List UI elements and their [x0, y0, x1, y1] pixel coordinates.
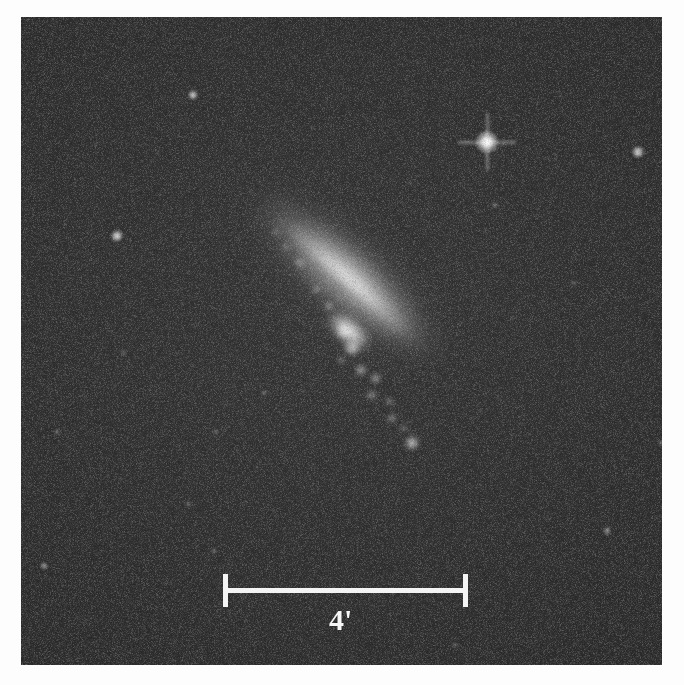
hii-region-knot	[295, 258, 305, 268]
faint-star-icon	[94, 142, 98, 146]
hii-region-knot	[272, 228, 280, 236]
faint-star-icon	[494, 148, 498, 152]
hii-region-knot	[337, 356, 346, 365]
galaxy-dust-lane	[247, 206, 417, 357]
sky-image-field: 4'	[21, 17, 662, 665]
faint-star-icon	[261, 390, 267, 396]
faint-star-icon	[626, 358, 630, 362]
hii-region-knot	[400, 424, 408, 432]
scale-bar-tick-left	[223, 574, 228, 607]
faint-star-icon	[408, 181, 412, 185]
background-vignette	[21, 17, 662, 665]
galaxy	[21, 17, 662, 665]
hii-region-knot	[324, 301, 334, 311]
faint-star-icon	[121, 350, 127, 356]
diffraction-spike-vertical	[486, 113, 489, 170]
galaxy-halo	[203, 140, 492, 413]
galaxy-inner-disk	[257, 201, 437, 365]
galaxy-disk	[229, 167, 465, 386]
faint-star-icon	[571, 280, 577, 286]
faint-star-icon	[492, 202, 498, 208]
scale-bar-label: 4'	[329, 605, 352, 635]
faint-star-icon	[510, 316, 514, 320]
faint-star-icon	[452, 642, 458, 648]
star-icon	[188, 90, 198, 100]
faint-star-icon	[211, 548, 217, 554]
hii-region-knot	[370, 373, 381, 384]
hii-region-knot	[282, 243, 290, 251]
diffraction-spike-horizontal	[458, 141, 515, 144]
star-icon	[632, 146, 644, 158]
faint-star-icon	[347, 517, 351, 521]
film-grain-shadows	[21, 17, 662, 665]
photographic-plate: 4'	[0, 0, 684, 685]
hii-region-knot	[405, 436, 419, 450]
faint-star-icon	[185, 501, 191, 507]
hii-region-knot	[367, 390, 377, 400]
galaxy-nucleus	[319, 302, 380, 360]
faint-star-icon	[54, 429, 60, 435]
faint-star-icon	[658, 440, 662, 446]
hii-region-knot	[337, 324, 351, 338]
faint-star-icon	[241, 595, 245, 599]
bright-star-icon	[476, 131, 498, 153]
faint-star-icon	[310, 126, 314, 130]
faint-star-icon	[40, 562, 48, 570]
hii-region-knot	[312, 285, 321, 294]
hii-region-knot	[355, 364, 367, 376]
faint-star-icon	[149, 310, 153, 314]
hii-region-knot	[385, 397, 394, 406]
faint-star-icon	[213, 429, 219, 435]
scale-bar-line	[223, 588, 467, 593]
star-icon	[111, 230, 123, 242]
faint-star-icon	[603, 527, 611, 535]
faint-star-icon	[558, 94, 562, 98]
film-grain-highlights	[21, 17, 662, 665]
hii-region-knot	[387, 413, 397, 423]
hii-region-knot	[344, 340, 360, 356]
scale-bar-tick-right	[463, 574, 468, 607]
faint-star-icon	[76, 616, 80, 620]
